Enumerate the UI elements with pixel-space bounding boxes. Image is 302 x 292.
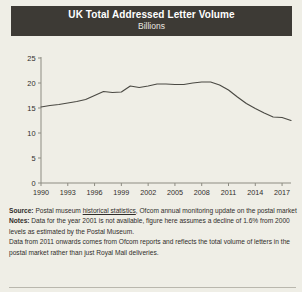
y-axis-tick-label: 5 (31, 154, 35, 163)
x-axis-tick-label: 2002 (140, 188, 156, 197)
x-axis-tick-label: 1996 (87, 188, 103, 197)
historical-statistics-link[interactable]: historical statistics (83, 207, 136, 214)
y-axis-tick-label: 20 (27, 79, 35, 88)
series-line-uk-letter-volume (41, 82, 291, 121)
x-axis-tick-label: 2008 (194, 188, 210, 197)
x-axis: 1990199319961999200220052008201120142017 (33, 183, 291, 197)
footnote-notes-2: Data from 2011 onwards comes from Ofcom … (9, 237, 297, 258)
footnote-source: Source: Postal museum historical statist… (9, 206, 297, 216)
y-axis-tick-label: 10 (27, 129, 35, 138)
chart-title-bar: UK Total Addressed Letter Volume Billion… (11, 6, 292, 36)
y-axis-tick-label: 15 (27, 104, 35, 113)
source-text-a: Postal museum (34, 207, 83, 214)
x-axis-tick-label: 1999 (113, 188, 129, 197)
line-chart-svg: 0510152025 19901993199619992002200520082… (0, 40, 302, 205)
notes-label: Notes: (9, 217, 30, 224)
chart-subtitle: Billions (11, 21, 292, 32)
x-axis-tick-label: 2014 (247, 188, 263, 197)
x-axis-tick-label: 2011 (221, 188, 236, 197)
y-axis-tick-label: 0 (31, 179, 35, 188)
chart-figure: UK Total Addressed Letter Volume Billion… (0, 0, 302, 292)
x-axis-tick-label: 2017 (274, 188, 290, 197)
y-axis-tick-label: 25 (27, 54, 35, 63)
source-label: Source: (9, 207, 34, 214)
footnote-notes: Notes: Data for the year 2001 is not ava… (9, 216, 297, 237)
page-title: UK Total Addressed Letter Volume (11, 9, 292, 21)
source-text-b: , Ofcom annual monitoring update on the … (136, 207, 297, 214)
bottom-divider (9, 287, 296, 288)
x-axis-tick-label: 2005 (167, 188, 183, 197)
x-axis-tick-label: 1990 (33, 188, 49, 197)
x-axis-tick-label: 1993 (60, 188, 76, 197)
y-axis: 0510152025 (27, 54, 41, 188)
notes-text: Data for the year 2001 is not available,… (9, 217, 290, 234)
footnotes: Source: Postal museum historical statist… (9, 206, 297, 258)
plot-area: 0510152025 19901993199619992002200520082… (0, 40, 302, 205)
